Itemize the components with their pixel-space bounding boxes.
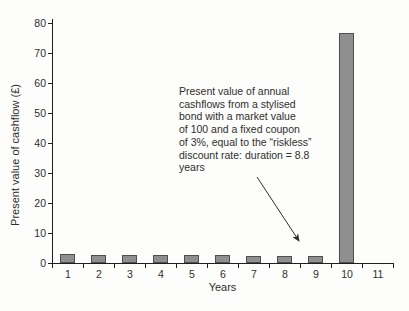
y-tick-label: 0 [18,258,46,269]
x-tick-label: 10 [334,269,360,280]
x-tick-label: 2 [86,269,112,280]
bar-year-2 [91,255,106,263]
bar-year-4 [153,255,168,263]
y-axis-line [52,19,53,264]
bar-year-3 [122,255,137,263]
y-tick-label: 70 [18,48,46,59]
bar-year-1 [60,254,75,263]
y-tick-label: 60 [18,78,46,89]
x-tick-mark [83,264,84,268]
x-tick-mark [176,264,177,268]
arrow-line [257,177,299,241]
y-tick-label: 80 [18,18,46,29]
x-tick-mark [393,264,394,268]
x-tick-label: 9 [303,269,329,280]
bar-year-9 [308,256,323,263]
y-tick-label: 50 [18,108,46,119]
x-tick-mark [362,264,363,268]
x-tick-mark [52,264,53,268]
x-tick-label: 3 [117,269,143,280]
y-tick-label: 10 [18,228,46,239]
y-tick-label: 20 [18,198,46,209]
x-tick-label: 6 [210,269,236,280]
x-tick-label: 4 [148,269,174,280]
x-axis-line [52,263,394,264]
x-tick-label: 1 [55,269,81,280]
x-tick-label: 8 [272,269,298,280]
bar-year-7 [246,256,261,263]
annotation-text: Present value of annual cashflows from a… [179,85,339,174]
x-tick-label: 7 [241,269,267,280]
y-tick-label: 40 [18,138,46,149]
x-tick-mark [269,264,270,268]
x-tick-mark [300,264,301,268]
bar-year-5 [184,255,199,263]
x-tick-label: 5 [179,269,205,280]
x-tick-mark [331,264,332,268]
x-tick-mark [114,264,115,268]
bar-year-8 [277,256,292,263]
bar-year-6 [215,255,230,263]
y-tick-label: 30 [18,168,46,179]
bar-year-10 [339,33,354,263]
x-axis-title: Years [52,281,393,293]
x-tick-mark [207,264,208,268]
bond-cashflow-chart: Present value of cashflow (£) 1110987654… [0,0,409,311]
x-tick-mark [145,264,146,268]
x-tick-mark [238,264,239,268]
x-tick-label: 11 [365,269,391,280]
